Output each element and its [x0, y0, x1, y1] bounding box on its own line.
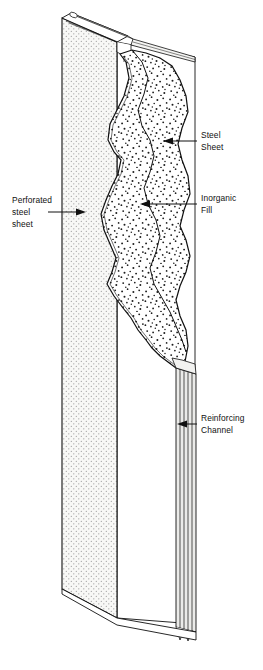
label-inorganic-fill: Inorganic Fill — [201, 193, 236, 215]
reinforcing-channel-label-line1: Reinforcing — [201, 413, 245, 423]
panel-cutaway-diagram: Perforated steel sheet Steel Sheet Inorg… — [0, 0, 263, 670]
inorganic-fill-label-line2: Fill — [201, 205, 212, 215]
perforated-sheet-label-line3: sheet — [12, 219, 34, 229]
diagram-canvas: Perforated steel sheet Steel Sheet Inorg… — [0, 0, 263, 670]
reinforcing-channel-label-line2: Channel — [201, 425, 233, 435]
perforated-sheet-face — [62, 18, 117, 618]
perforated-sheet-label-line1: Perforated — [12, 195, 52, 205]
perforated-sheet-label-line2: steel — [12, 207, 30, 217]
steel-sheet-label-line1: Steel — [201, 130, 221, 140]
label-reinforcing-channel: Reinforcing Channel — [201, 413, 245, 435]
label-perforated-steel-sheet: Perforated steel sheet — [12, 195, 52, 229]
label-steel-sheet: Steel Sheet — [201, 130, 224, 152]
reinforcing-channel — [172, 358, 196, 641]
inorganic-fill-label-line1: Inorganic — [201, 193, 236, 203]
steel-sheet-label-line2: Sheet — [201, 142, 224, 152]
